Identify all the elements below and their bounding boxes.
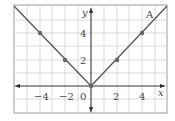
origin-label: 0 <box>80 91 86 102</box>
x-tick-4: 4 <box>139 91 145 102</box>
x-axis-label: x <box>158 87 164 98</box>
y-axis-label: y <box>81 7 88 18</box>
y-tick-2: 2 <box>80 55 86 66</box>
x-tick--2: −2 <box>59 91 74 102</box>
y-tick-4: 4 <box>80 28 86 39</box>
x-tick--4: −4 <box>34 91 49 102</box>
x-tick-2: 2 <box>113 91 119 102</box>
graph: −4 −2 0 2 4 2 4 x y A <box>0 0 175 121</box>
curve-label-a: A <box>145 9 154 20</box>
